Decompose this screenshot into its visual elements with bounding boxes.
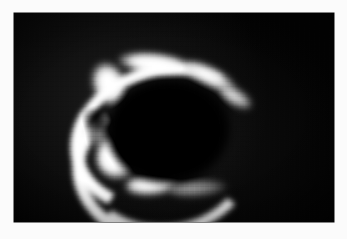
figure-frame: Grayscale astronomical image showing a b… xyxy=(0,0,347,239)
astronomy-image-panel xyxy=(14,13,334,222)
ring-arc-structure xyxy=(14,13,334,222)
